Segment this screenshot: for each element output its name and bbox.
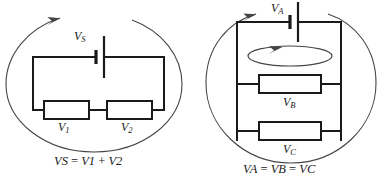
parallel-inner-arrowhead — [269, 46, 283, 54]
parallel-inner-swirl — [248, 46, 332, 66]
series-loop-arrowhead — [47, 17, 61, 25]
parallel-caption: VA = VB = VC — [243, 163, 315, 176]
resistor-vc — [259, 122, 321, 140]
resistor-vb — [259, 75, 321, 93]
label-vc: VC — [283, 143, 296, 155]
label-v2: V2 — [121, 121, 133, 133]
resistor-v1 — [44, 101, 89, 119]
parallel-circuit-group — [206, 2, 376, 163]
label-v-source: VS — [74, 30, 86, 42]
series-circuit-group — [6, 17, 182, 152]
label-v1: V1 — [58, 121, 70, 133]
series-caption: VS = V1 + V2 — [54, 155, 122, 168]
parallel-loop-arrowhead — [243, 14, 257, 22]
circuit-diagram-canvas — [0, 0, 381, 180]
circuit-figure: VS V1 V2 VS = V1 + V2 VA VB VC VA = VB =… — [0, 0, 381, 180]
resistor-v2 — [107, 101, 152, 119]
label-va: VA — [271, 2, 284, 14]
label-vb: VB — [283, 96, 296, 108]
